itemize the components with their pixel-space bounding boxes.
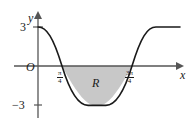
x-tick-three-pi-over-4-denominator: 4 (125, 77, 134, 85)
x-tick-label-pi-over-4: π 4 (57, 70, 63, 86)
x-axis-label: x (180, 69, 185, 81)
y-tick-label-positive-3: 3 (20, 21, 26, 33)
x-tick-pi-over-4-denominator: 4 (57, 77, 63, 85)
x-tick-pi-over-4-numerator: π (57, 70, 63, 77)
x-tick-label-three-pi-over-4: 3π 4 (125, 70, 134, 86)
x-tick-three-pi-over-4-numerator: 3π (125, 70, 134, 77)
y-axis-arrowhead (34, 11, 42, 19)
origin-label: O (26, 61, 35, 73)
region-label-r: R (92, 77, 99, 89)
figure-container: y x O R 3 −3 π 4 3π 4 (0, 0, 194, 121)
y-axis-label: y (28, 12, 33, 24)
y-tick-label-negative-3: −3 (12, 99, 25, 111)
